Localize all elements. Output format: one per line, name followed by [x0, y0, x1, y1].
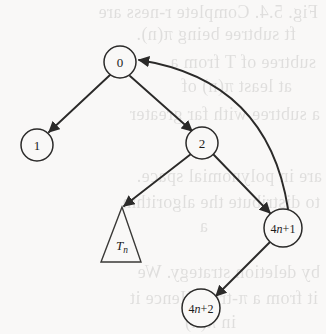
subtree-label: Tn — [116, 238, 128, 255]
graph-node-4np2: 4n+2 — [182, 289, 220, 327]
graph-node-4np1: 4n+1 — [264, 209, 302, 247]
node-label: 0 — [117, 55, 124, 70]
subtree-label-subscript: n — [123, 245, 128, 255]
subtree-triangle-layer: Tn — [101, 207, 141, 262]
node-label: 4n+2 — [189, 302, 214, 316]
graph-node-1: 1 — [21, 129, 53, 161]
edge-4np1-to-4np2 — [216, 241, 271, 296]
edge-2-to-Tn — [124, 154, 191, 206]
graph-node-0: 0 — [104, 46, 136, 78]
node-layer: 0124n+14n+2 — [21, 46, 302, 327]
node-label: 2 — [199, 136, 206, 151]
node-label: 1 — [34, 138, 41, 153]
subtree-triangle — [101, 207, 141, 262]
edge-2-to-4np1 — [213, 154, 270, 213]
graph-node-2: 2 — [186, 127, 218, 159]
edge-0-to-2 — [130, 76, 192, 131]
figure-canvas: Fig. 5.4. Complete r-ness areft subtree … — [0, 0, 326, 334]
graph-diagram: Tn 0124n+14n+2 — [0, 0, 326, 334]
edge-0-to-1 — [49, 75, 110, 132]
node-label: 4n+1 — [271, 222, 296, 236]
edge-layer — [49, 60, 288, 296]
